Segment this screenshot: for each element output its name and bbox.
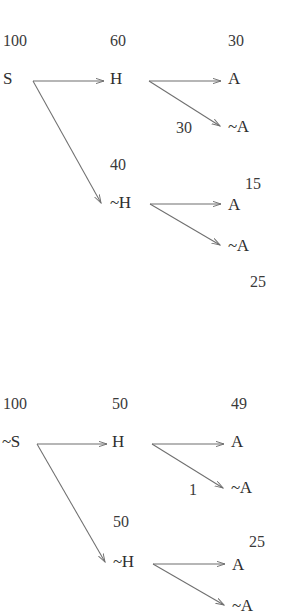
node-top-a2: A xyxy=(228,196,240,213)
edge-nh-to-na xyxy=(150,204,220,245)
count-bottom-na1: 1 xyxy=(189,482,197,498)
count-bottom-root: 100 xyxy=(3,396,27,412)
node-bottom-na2: ~A xyxy=(232,597,252,611)
node-top-h: H xyxy=(110,70,122,87)
node-bottom-nh: ~H xyxy=(113,553,133,570)
count-top-a1: 30 xyxy=(228,33,244,49)
count-top-na1: 30 xyxy=(176,120,192,136)
node-bottom-na1: ~A xyxy=(231,479,251,496)
count-top-na2: 25 xyxy=(250,274,266,290)
edge-h-to-na-2 xyxy=(152,444,223,488)
node-top-na2: ~A xyxy=(228,237,248,254)
edge-s-to-nh xyxy=(33,81,101,203)
count-top-h: 60 xyxy=(110,33,126,49)
count-top-nh: 40 xyxy=(110,157,126,173)
node-bottom-a1: A xyxy=(231,433,243,450)
edge-nh-to-na-2 xyxy=(153,564,224,605)
edge-ns-to-nh xyxy=(37,444,105,562)
tree-diagram-figure: 100 S 60 H 30 A 30 ~A 40 ~H 15 A ~A 25 1… xyxy=(0,0,286,611)
node-top-na1: ~A xyxy=(228,118,248,135)
node-bottom-a2: A xyxy=(232,556,244,573)
arrow-layer xyxy=(0,0,286,611)
node-top-nh: ~H xyxy=(110,194,130,211)
count-bottom-a2: 25 xyxy=(249,534,265,550)
count-top-root: 100 xyxy=(3,33,27,49)
count-bottom-nh: 50 xyxy=(113,514,129,530)
node-bottom-root-ns: ~S xyxy=(2,433,20,450)
node-bottom-h: H xyxy=(112,433,124,450)
count-top-a2: 15 xyxy=(245,176,261,192)
node-top-root-s: S xyxy=(3,70,12,87)
node-top-a1: A xyxy=(228,70,240,87)
count-bottom-a1: 49 xyxy=(231,396,247,412)
count-bottom-h: 50 xyxy=(112,396,128,412)
